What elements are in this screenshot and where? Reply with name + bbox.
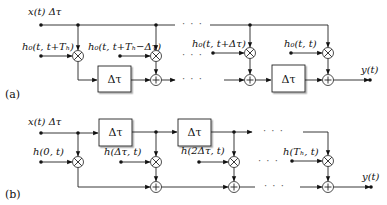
panel-a: (a) x(t) Δτ · · · h₀(t, t+Tₕ) Δτ h₀(t, t…: [5, 6, 379, 101]
svg-text:· · ·: · · ·: [182, 49, 203, 60]
adder-icon: [323, 75, 334, 86]
multiplier-icon: [73, 157, 84, 168]
multiplier-icon: [73, 51, 84, 62]
coef-a-4: h₀(t, t): [284, 38, 317, 49]
multiplier-icon: [323, 156, 334, 167]
multiplier-icon: [151, 51, 162, 62]
panel-b: (b) x(t) Δτ Δτ Δτ · · · h(0, t) h(Δτ, t): [5, 116, 380, 201]
multiplier-icon: [323, 48, 334, 59]
coef-b-1: h(0, t): [33, 146, 64, 157]
adder-icon: [151, 182, 162, 193]
output-node: [368, 78, 372, 82]
svg-text:· · ·: · · ·: [263, 125, 284, 136]
ellipsis: · · ·: [182, 18, 203, 29]
adder-icon: [151, 75, 162, 86]
multiplier-icon: [245, 48, 256, 59]
coef-b-2: h(Δτ, t): [104, 146, 141, 157]
svg-text:· · ·: · · ·: [258, 155, 279, 166]
adder-icon: [245, 75, 256, 86]
panel-b-output-label: y(t): [361, 171, 380, 182]
svg-text:· · ·: · · ·: [182, 73, 203, 84]
svg-text:Δτ: Δτ: [108, 126, 122, 139]
coef-a-1: h₀(t, t+Tₕ): [22, 41, 74, 52]
multiplier-icon: [229, 157, 240, 168]
output-node: [369, 185, 373, 189]
panel-a-output-label: y(t): [360, 64, 379, 75]
adder-icon: [229, 182, 240, 193]
panel-a-input-label: x(t) Δτ: [28, 6, 62, 17]
panel-b-input-label: x(t) Δτ: [28, 116, 62, 127]
coef-a-2: h₀(t, t+Tₕ−Δτ): [88, 41, 161, 52]
svg-text:Δτ: Δτ: [107, 73, 121, 86]
filter-block-diagram: (a) x(t) Δτ · · · h₀(t, t+Tₕ) Δτ h₀(t, t…: [0, 0, 387, 205]
adder-icon: [323, 182, 334, 193]
panel-b-label: (b): [5, 188, 21, 201]
coef-b-3: h(2Δτ, t): [181, 145, 225, 156]
coef-b-4: h(Tₕ, t): [283, 146, 319, 157]
multiplier-icon: [151, 157, 162, 168]
coef-a-3: h₀(t, t+Δτ): [192, 38, 246, 49]
svg-text:Δτ: Δτ: [187, 126, 201, 139]
svg-text:Δτ: Δτ: [281, 73, 295, 86]
panel-a-label: (a): [5, 88, 20, 101]
svg-text:· · ·: · · ·: [264, 180, 285, 191]
